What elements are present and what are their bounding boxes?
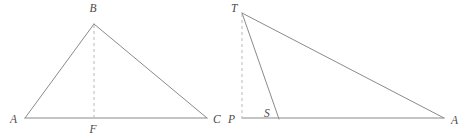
vertex-label-S: S [264,107,270,119]
vertex-label-F: F [88,123,97,135]
vertex-label-A-left: A [9,113,18,125]
vertex-label-P: P [227,113,235,125]
vertex-label-B: B [89,2,96,14]
geometry-diagram: A B C F T P S A [0,0,470,138]
vertex-label-A-right: A [450,114,459,126]
vertex-label-C: C [213,113,221,125]
